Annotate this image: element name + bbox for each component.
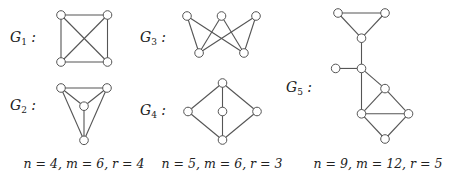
g5-vertex-3 [331,64,340,73]
g4-vertex-4 [218,136,227,145]
g1-vertex-2 [57,58,66,67]
caption-g3-g4: n = 5, m = 6, r = 3 [162,156,283,171]
g3-edge-5 [244,16,256,53]
label-g4: G4 : [140,102,166,120]
g4-edge-3 [188,112,223,141]
g3-edge-2 [199,16,221,53]
g2-edge-5 [84,88,107,140]
graph-g4 [184,79,262,145]
g5-vertex-6 [357,110,366,119]
g2-vertex-1 [103,84,112,93]
g4-edge-5 [223,112,258,141]
g5-edge-7 [362,89,386,114]
g3-vertex-1 [217,12,226,21]
g3-edge-3 [222,16,244,53]
g4-vertex-1 [184,107,193,116]
g5-vertex-1 [381,9,390,18]
g5-edge-10 [362,114,386,139]
g4-vertex-3 [253,107,262,116]
g5-vertex-8 [381,135,390,144]
graph-g1 [57,11,112,67]
g3-edge-4 [199,16,256,53]
g5-edge-8 [385,89,409,114]
graph-g3 [183,12,261,58]
graph-g5 [331,9,412,144]
g5-vertex-2 [357,34,366,43]
g4-vertex-0 [218,79,227,88]
g5-vertex-7 [404,110,413,119]
label-g2: G2 : [10,97,36,115]
caption-g5: n = 9, m = 12, r = 5 [314,156,443,171]
g4-vertex-2 [218,107,227,116]
g5-vertex-4 [357,64,366,73]
g4-edge-0 [188,83,223,112]
g3-vertex-2 [252,12,261,21]
caption-g1-g2: n = 4, m = 6, r = 4 [24,156,145,171]
g3-edge-1 [187,16,244,53]
g2-vertex-0 [57,84,66,93]
g1-vertex-3 [103,58,112,67]
g2-edge-4 [61,88,84,140]
g5-vertex-5 [381,84,390,93]
g3-vertex-4 [240,49,249,58]
g1-vertex-1 [103,11,112,20]
g5-edge-1 [338,13,362,38]
label-g1: G1 : [10,29,36,47]
g1-vertex-0 [57,11,66,20]
g2-vertex-2 [80,102,89,111]
g3-vertex-3 [195,49,204,58]
graph-g2 [57,84,112,145]
g5-edge-2 [362,13,386,38]
g3-edge-0 [187,16,199,53]
label-g5: G5 : [286,79,312,97]
g3-vertex-0 [183,12,192,21]
g5-edge-11 [385,114,409,139]
label-g3: G3 : [140,29,166,47]
g2-vertex-3 [80,136,89,145]
g4-edge-2 [223,83,258,112]
g5-vertex-0 [334,9,343,18]
graph-figure: G1 : G2 : G3 : G4 : G5 : n = 4, m = 6, r… [0,0,457,177]
